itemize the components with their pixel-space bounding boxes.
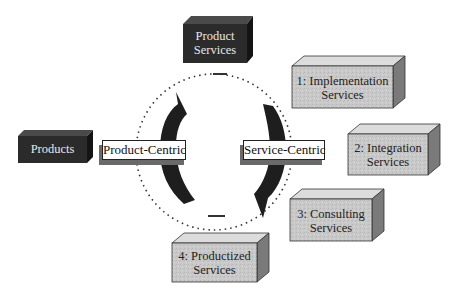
product-services-line1: Product	[183, 29, 247, 43]
products-label: Products	[18, 142, 87, 156]
service-box-2-line2: Services	[348, 155, 428, 169]
service-box-1-label: 1: Implementation Services	[292, 74, 393, 102]
service-box-1-line2: Services	[292, 88, 393, 102]
product-services-label: Product Services	[183, 29, 247, 57]
service-box-1-line1: 1: Implementation	[292, 74, 393, 88]
service-box-4-line2: Services	[172, 263, 257, 277]
service-centric-label: Service-Centric	[243, 140, 325, 160]
service-box-3-label: 3: Consulting Services	[290, 207, 372, 235]
bottom-dash	[208, 215, 225, 217]
service-box-2-line1: 2: Integration	[348, 141, 428, 155]
service-box-4-label: 4: Productized Services	[172, 249, 257, 277]
product-centric-label: Product-Centric	[102, 140, 186, 160]
service-box-3-line1: 3: Consulting	[290, 207, 372, 221]
service-box-3-line2: Services	[290, 221, 372, 235]
product-services-line2: Services	[183, 43, 247, 57]
service-box-4-line1: 4: Productized	[172, 249, 257, 263]
service-box-2-label: 2: Integration Services	[348, 141, 428, 169]
top-dash	[213, 73, 227, 75]
